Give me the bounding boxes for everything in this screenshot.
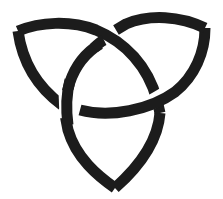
triquetra-canvas: Triquetra xyxy=(0,0,223,199)
left-crossing xyxy=(67,80,70,125)
top-left-loop-lower-arc xyxy=(18,31,62,105)
top-left-loop xyxy=(18,23,160,113)
bottom-loop-left-over xyxy=(67,80,70,125)
triquetra-icon xyxy=(0,0,223,199)
top-right-loop-upper-arc xyxy=(116,18,205,30)
bottom-loop-right-arc xyxy=(115,113,160,188)
top-right-loop-inner-seg xyxy=(94,40,104,48)
